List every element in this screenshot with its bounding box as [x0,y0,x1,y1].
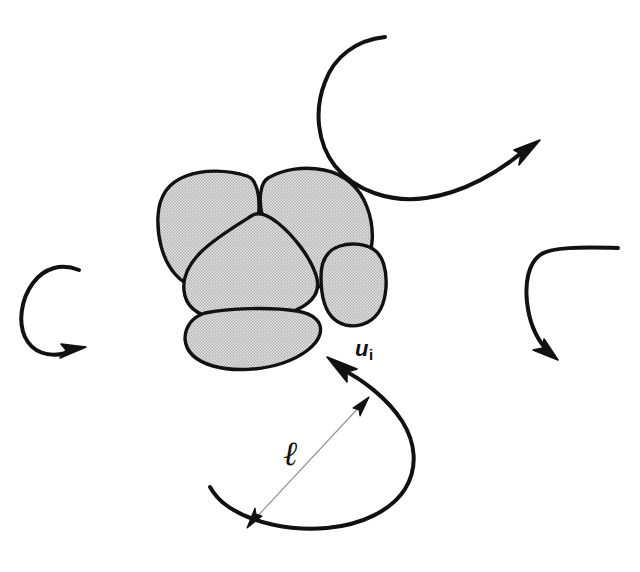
length-scale-label: ℓ [283,437,297,471]
eddy-bottom-arc [210,369,414,529]
eddy-bottom-arrowhead [327,357,357,382]
eddy-top-right-arc [319,37,527,199]
velocity-symbol: u [355,336,368,361]
dimension-arrowhead-upper [353,397,369,416]
eddy-right-arrowhead [533,339,558,360]
blob-bottom [185,309,321,370]
velocity-subscript: i [369,346,373,363]
eddy-left-arrowhead [60,344,86,358]
eddy-right [526,248,618,360]
eddy-top-right-arrowhead [514,140,540,165]
eddy-left-arc [21,267,79,355]
blob-right-small [321,244,386,326]
eddy-right-arc [526,248,618,348]
dimension-line [253,403,363,521]
eddy-top-right [319,37,540,199]
particle-cluster [158,168,386,369]
eddy-left [21,267,86,358]
eddy-bottom [210,357,414,529]
velocity-label: ui [355,338,373,362]
figure-canvas: ui ℓ [0,0,640,572]
length-scale-dimension [247,397,369,528]
diagram-svg [0,0,640,572]
